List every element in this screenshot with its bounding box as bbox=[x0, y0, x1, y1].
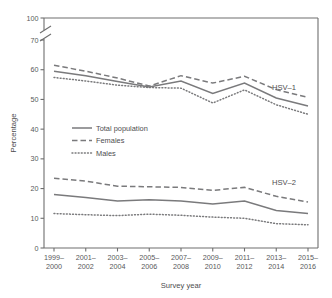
y-tick-label: 10 bbox=[31, 214, 39, 223]
x-tick-label: 2014 bbox=[268, 262, 284, 271]
series-line bbox=[54, 77, 308, 114]
y-tick-label: 0 bbox=[35, 244, 39, 253]
x-tick-label: 2016 bbox=[300, 262, 316, 271]
x-tick-label: 2011– bbox=[235, 253, 254, 262]
group-label: HSV–1 bbox=[272, 83, 296, 92]
y-tick-label: 40 bbox=[31, 125, 39, 134]
y-tick-label: 50 bbox=[31, 95, 39, 104]
legend-label: Males bbox=[96, 149, 116, 158]
x-tick-label: 2008 bbox=[173, 262, 189, 271]
group-label: HSV–2 bbox=[272, 178, 296, 187]
y-axis-title: Percentage bbox=[9, 114, 18, 153]
x-tick-label: 1999– bbox=[44, 253, 64, 262]
x-tick-label: 2000 bbox=[46, 262, 62, 271]
chart-figure: 0102030405060701001999–20002001–20022003… bbox=[0, 0, 332, 298]
x-tick-label: 2013– bbox=[266, 253, 286, 262]
x-tick-label: 2009– bbox=[203, 253, 223, 262]
y-tick-label: 100 bbox=[27, 14, 39, 23]
x-tick-label: 2006 bbox=[141, 262, 157, 271]
series-line bbox=[54, 214, 308, 225]
x-tick-label: 2010 bbox=[205, 262, 221, 271]
x-tick-label: 2001– bbox=[76, 253, 96, 262]
x-tick-label: 2007– bbox=[171, 253, 191, 262]
x-tick-label: 2002 bbox=[78, 262, 94, 271]
x-axis-title: Survey year bbox=[161, 281, 202, 290]
legend-label: Females bbox=[96, 136, 125, 145]
x-tick-label: 2004 bbox=[110, 262, 126, 271]
x-tick-label: 2015– bbox=[298, 253, 318, 262]
y-tick-label: 30 bbox=[31, 154, 39, 163]
series-line bbox=[54, 195, 308, 214]
x-tick-label: 2012 bbox=[237, 262, 253, 271]
y-tick-label: 60 bbox=[31, 65, 39, 74]
herpes-prevalence-line-chart: 0102030405060701001999–20002001–20022003… bbox=[0, 0, 332, 298]
x-tick-label: 2005– bbox=[139, 253, 159, 262]
y-tick-label: 20 bbox=[31, 184, 39, 193]
y-tick-label: 70 bbox=[31, 36, 39, 45]
x-tick-label: 2003– bbox=[108, 253, 128, 262]
legend-label: Total population bbox=[96, 124, 148, 133]
